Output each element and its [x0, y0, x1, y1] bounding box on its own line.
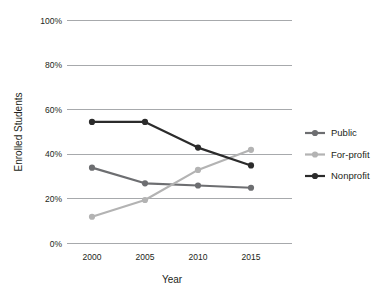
- legend-item-nonprofit[interactable]: Nonprofit: [305, 170, 370, 181]
- legend-marker: [312, 130, 318, 136]
- series-layer: [89, 119, 254, 220]
- x-axis-tick-labels: 2000 2005 2010 2015: [83, 252, 261, 262]
- y-tick-label-60: 60%: [45, 105, 62, 115]
- data-point: [195, 145, 201, 151]
- y-tick-label-0: 0%: [50, 239, 63, 249]
- line-chart: 100% 80% 60% 40% 20% 0% 2000 2005 2010 2…: [0, 0, 383, 295]
- y-axis-tick-labels: 100% 80% 60% 40% 20% 0%: [40, 16, 62, 249]
- x-axis-title: Year: [162, 274, 183, 285]
- legend-label: For-profit: [331, 149, 370, 160]
- legend-item-public[interactable]: Public: [305, 127, 357, 138]
- legend-label: Nonprofit: [331, 170, 370, 181]
- y-tick-label-40: 40%: [45, 149, 62, 159]
- data-point: [195, 167, 201, 173]
- data-point: [248, 185, 254, 191]
- data-point: [89, 165, 95, 171]
- data-point: [89, 214, 95, 220]
- y-axis-title: Enrolled Students: [13, 93, 24, 172]
- x-tick-label-2010: 2010: [189, 252, 208, 262]
- data-point: [142, 119, 148, 125]
- legend-label: Public: [331, 127, 357, 138]
- data-point: [142, 180, 148, 186]
- chart-legend: PublicFor-profitNonprofit: [305, 127, 370, 181]
- legend-marker: [312, 151, 318, 157]
- series-public: [89, 165, 254, 191]
- series-nonprofit: [89, 119, 254, 169]
- chart-canvas: 100% 80% 60% 40% 20% 0% 2000 2005 2010 2…: [0, 0, 383, 295]
- x-tick-label-2005: 2005: [136, 252, 155, 262]
- legend-item-for-profit[interactable]: For-profit: [305, 149, 370, 160]
- data-point: [195, 182, 201, 188]
- y-tick-label-20: 20%: [45, 194, 62, 204]
- x-tick-label-2000: 2000: [83, 252, 102, 262]
- data-point: [89, 119, 95, 125]
- x-tick-label-2015: 2015: [242, 252, 261, 262]
- series-line: [92, 150, 251, 217]
- data-point: [142, 197, 148, 203]
- y-tick-label-100: 100%: [40, 16, 62, 26]
- y-tick-label-80: 80%: [45, 60, 62, 70]
- legend-marker: [312, 173, 318, 179]
- data-point: [248, 162, 254, 168]
- data-point: [248, 147, 254, 153]
- gridlines: [67, 21, 292, 244]
